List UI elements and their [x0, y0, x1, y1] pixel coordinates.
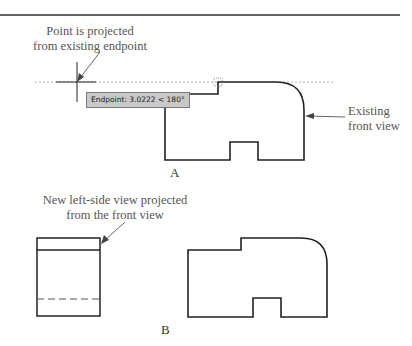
callout-line: Existing: [348, 104, 400, 119]
panel-label-b: B: [161, 322, 170, 338]
endpoint-tooltip: Endpoint: 3.0222 < 180°: [86, 92, 190, 108]
callout-line: New left-side view projected: [40, 193, 190, 208]
leader-arrow-point: [80, 52, 100, 78]
arrowhead-icon: [305, 113, 314, 119]
callout-line: from the front view: [40, 208, 190, 223]
callout-point-projected: Point is projected from existing endpoin…: [20, 24, 160, 54]
front-view-shape-b: [188, 238, 327, 317]
arrowhead-icon: [101, 235, 109, 244]
callout-line: Point is projected: [20, 24, 160, 39]
panel-label-a: A: [170, 165, 179, 181]
callout-new-left-side-view: New left-side view projected from the fr…: [40, 193, 190, 223]
callout-line: front view: [348, 119, 400, 134]
callout-line: from existing endpoint: [20, 39, 160, 54]
leader-arrow-left-view: [104, 222, 125, 241]
callout-existing-front-view: Existing front view: [348, 104, 400, 134]
